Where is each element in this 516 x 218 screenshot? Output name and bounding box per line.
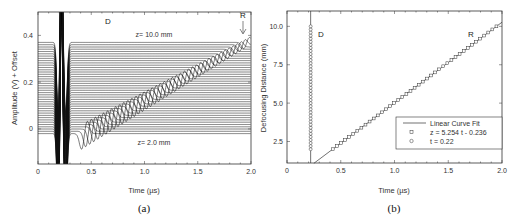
square-marker [405,93,408,96]
square-marker [425,77,428,80]
x-tick-label: 2.0 [246,168,256,175]
square-marker [397,99,400,102]
square-marker [466,46,469,49]
square-marker [438,68,441,71]
y-tick-label: 5.0 [273,100,283,107]
circle-marker [309,102,312,105]
square-marker [356,129,359,132]
square-marker [372,117,375,120]
y-tick-label: 7.5 [273,61,283,68]
caption-b: (b) [388,202,401,215]
square-marker [348,135,351,138]
caption-a: (a) [138,202,151,215]
square-marker [376,114,379,117]
square-marker [487,31,490,34]
legend: Linear Curve Fit z = 5.254 t - 0.236 t =… [396,117,502,149]
square-marker [479,37,482,40]
label-z-bottom: z= 2.0 mm [138,139,171,146]
circle-marker [309,43,312,46]
y-tick-label: 0 [29,125,33,132]
waveform-trace [38,0,251,182]
waveform-trace [38,0,251,177]
circle-marker [309,46,312,49]
y-axis-label-a: Amplitude (V) + Offset [10,50,19,125]
circle-marker [309,34,312,37]
square-marker [462,50,465,53]
x-axis-label-a: Time (µs) [128,186,160,195]
circle-marker [309,83,312,86]
x-tick-label: 1.5 [443,167,453,174]
circle-marker [309,114,312,117]
square-marker [368,120,371,123]
square-marker [385,108,388,111]
circle-marker [309,108,312,111]
x-tick-label: 2.0 [497,167,507,174]
panel-a: 00.51.01.52.000.20.4 Time (µs) Amplitude… [10,0,256,215]
square-marker [495,25,498,28]
x-tick-label: 0 [36,168,40,175]
circle-marker [309,68,312,71]
circle-marker [309,59,312,62]
legend-label-circle: t = 0.22 [430,138,454,145]
circle-marker [309,142,312,145]
waveform-trace [38,11,251,207]
square-marker [401,96,404,99]
circle-marker [309,123,312,126]
legend-label-square: z = 5.254 t - 0.236 [430,129,487,136]
circle-marker [309,120,312,123]
circle-marker [309,80,312,83]
square-marker [389,105,392,108]
circle-marker [309,132,312,135]
x-tick-label: 0 [285,167,289,174]
circle-marker [309,25,312,28]
square-marker [450,59,453,62]
circle-marker [309,37,312,40]
circle-marker [309,111,312,114]
square-marker [352,132,355,135]
waveform-trace [38,0,251,186]
circle-marker [309,95,312,98]
waveform-trace [38,0,251,150]
circle-marker [309,71,312,74]
circle-marker [309,40,312,43]
x-tick-label: 1.0 [390,167,400,174]
circle-marker [309,86,312,89]
square-marker [483,34,486,37]
y-tick-label: 10.0 [269,23,283,30]
x-axis-label-b: Time (µs) [378,186,410,195]
square-marker [491,28,494,31]
waveform-trace [38,0,251,173]
circle-marker [309,28,312,31]
square-marker [340,142,343,145]
circle-marker [309,49,312,52]
square-marker [360,126,363,129]
circle-marker [309,145,312,148]
square-marker [417,83,420,86]
circle-marker [309,148,312,151]
figure: 00.51.01.52.000.20.4 Time (µs) Amplitude… [0,0,516,218]
circle-marker [309,138,312,141]
panel-b: 00.51.01.52.02.55.07.510.0 Time (µs) Def… [259,11,507,215]
waveform-trace [38,0,251,118]
annotation-r-b: R [468,30,474,39]
square-marker [409,89,412,92]
square-marker [413,86,416,89]
square-marker [364,123,367,126]
circle-marker [309,74,312,77]
square-marker [421,80,424,83]
square-marker [393,102,396,105]
waveform-trace [38,0,251,136]
circle-marker [309,65,312,68]
y-tick-label: 2.5 [273,138,283,145]
square-marker [335,145,338,148]
arrow-down-icon [240,21,246,34]
square-marker [458,53,461,56]
square-marker [331,148,334,151]
circle-marker [309,62,312,65]
circle-marker [309,92,312,95]
circle-marker [309,31,312,34]
square-marker [446,62,449,65]
square-marker [442,65,445,68]
x-tick-label: 1.5 [193,168,203,175]
annotation-r-a: R [240,11,246,20]
